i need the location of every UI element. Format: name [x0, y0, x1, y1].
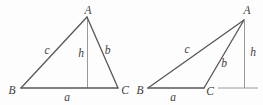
- left-triangle-figure: A B C c b a h: [8, 4, 129, 103]
- left-side-ab: [21, 17, 87, 88]
- left-altitude-h-label: h: [78, 47, 84, 59]
- left-vertex-a-label: A: [83, 4, 92, 16]
- right-vertex-c-label: C: [206, 85, 214, 97]
- right-side-c-label: c: [184, 43, 189, 55]
- left-side-ac: [87, 17, 118, 88]
- triangle-altitude-diagram: A B C c b a h A B C c b a h: [0, 0, 263, 105]
- left-side-b-label: b: [105, 44, 111, 56]
- right-altitude-h-label: h: [250, 46, 256, 58]
- right-side-ab: [148, 20, 244, 88]
- right-side-a-label: a: [170, 91, 176, 103]
- right-side-ac: [204, 20, 244, 88]
- left-side-c-label: c: [44, 44, 49, 56]
- right-vertex-b-label: B: [136, 84, 143, 96]
- right-vertex-a-label: A: [242, 4, 251, 16]
- right-side-b-label: b: [221, 57, 227, 69]
- left-vertex-b-label: B: [8, 84, 15, 96]
- right-triangle-figure: A B C c b a h: [136, 4, 258, 103]
- diagram-canvas: A B C c b a h A B C c b a h: [0, 0, 263, 105]
- left-vertex-c-label: C: [121, 84, 129, 96]
- left-side-a-label: a: [64, 91, 70, 103]
